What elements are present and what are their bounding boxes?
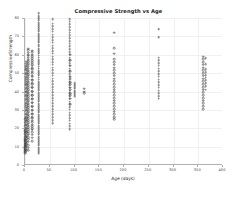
y-tick-label: 30 xyxy=(5,108,19,112)
data-point xyxy=(69,103,72,106)
data-point xyxy=(27,141,30,144)
data-point xyxy=(31,129,34,132)
data-point xyxy=(27,128,30,131)
data-point xyxy=(73,91,76,94)
data-point xyxy=(113,72,116,75)
y-axis-label: CompressiveStrength xyxy=(8,19,13,99)
x-tick-mark xyxy=(98,165,99,167)
data-point xyxy=(51,47,54,50)
data-points-layer xyxy=(25,18,222,164)
y-tick-mark xyxy=(22,55,24,56)
data-point xyxy=(27,121,30,124)
data-point xyxy=(38,84,41,87)
data-point xyxy=(83,87,86,90)
data-point xyxy=(38,80,41,83)
x-tick-mark xyxy=(123,165,124,167)
data-point xyxy=(31,63,34,66)
data-point xyxy=(31,74,34,77)
data-point xyxy=(113,66,116,69)
data-point xyxy=(31,117,34,120)
data-point xyxy=(113,118,116,121)
data-point xyxy=(157,36,160,39)
x-tick-mark xyxy=(222,165,223,167)
data-point xyxy=(38,69,41,72)
x-tick-label: 0 xyxy=(23,168,25,172)
data-point xyxy=(68,37,71,40)
y-tick-mark xyxy=(22,18,24,19)
scatter-chart-figure: Compressive Strength vs Age 050100150200… xyxy=(0,0,237,199)
data-point xyxy=(113,83,116,86)
data-point xyxy=(27,73,30,76)
data-point xyxy=(38,132,41,135)
data-point xyxy=(38,106,41,109)
data-point xyxy=(38,62,41,65)
data-point xyxy=(38,102,41,105)
data-point xyxy=(51,113,54,116)
x-tick-mark xyxy=(197,165,198,167)
data-point xyxy=(31,125,34,128)
data-point xyxy=(157,59,160,62)
data-point xyxy=(73,84,76,87)
data-point xyxy=(204,82,207,85)
data-point xyxy=(83,92,86,95)
x-tick-label: 50 xyxy=(46,168,51,172)
data-point xyxy=(51,122,54,125)
data-point xyxy=(31,94,34,97)
data-point xyxy=(27,132,30,135)
data-point xyxy=(113,110,116,113)
data-point xyxy=(38,77,41,80)
data-point xyxy=(157,92,160,95)
y-tick-mark xyxy=(22,147,24,148)
data-point xyxy=(31,90,34,93)
data-point xyxy=(51,108,54,111)
y-tick-mark xyxy=(22,165,24,166)
data-point xyxy=(38,110,41,113)
data-point xyxy=(73,87,76,90)
data-point xyxy=(38,95,41,98)
x-tick-mark xyxy=(148,165,149,167)
data-point xyxy=(27,66,30,69)
data-point xyxy=(204,57,207,60)
data-point xyxy=(31,67,34,70)
data-point xyxy=(27,117,30,120)
y-tick-mark xyxy=(22,110,24,111)
data-point xyxy=(31,86,34,89)
data-point xyxy=(38,121,41,124)
data-point xyxy=(113,105,116,108)
data-point xyxy=(113,61,116,64)
data-point xyxy=(38,25,41,28)
data-point xyxy=(38,99,41,102)
x-tick-label: 100 xyxy=(70,168,77,172)
data-point xyxy=(204,63,207,66)
data-point xyxy=(113,94,116,97)
data-point xyxy=(69,64,72,67)
data-point xyxy=(38,128,41,131)
data-point xyxy=(38,51,41,54)
data-point xyxy=(51,36,54,39)
data-point xyxy=(51,64,54,67)
data-point xyxy=(113,88,116,91)
data-point xyxy=(204,85,207,88)
data-point xyxy=(204,71,207,74)
data-point xyxy=(27,106,30,109)
data-point xyxy=(157,98,160,101)
data-point xyxy=(113,47,116,50)
data-point xyxy=(202,91,205,94)
data-point xyxy=(27,58,30,61)
data-point xyxy=(157,64,160,67)
x-tick-mark xyxy=(173,165,174,167)
data-point xyxy=(68,114,71,117)
data-point xyxy=(27,124,30,127)
data-point xyxy=(27,95,30,98)
data-point xyxy=(68,26,71,29)
data-point xyxy=(69,88,72,91)
data-point xyxy=(27,62,30,65)
data-point xyxy=(38,143,41,146)
data-point xyxy=(51,86,54,89)
data-point xyxy=(51,91,54,94)
data-point xyxy=(31,102,34,105)
data-point xyxy=(38,113,41,116)
data-point xyxy=(69,94,72,97)
data-point xyxy=(27,84,30,87)
data-point xyxy=(68,31,71,34)
